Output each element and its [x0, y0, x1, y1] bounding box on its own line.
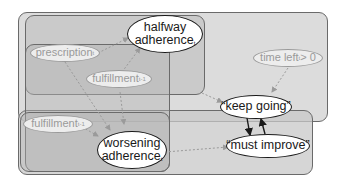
node-time-left: time leftt > 0: [253, 49, 323, 67]
node-fulfillmentb-label: fulfillment: [31, 118, 77, 130]
edge-prescription-halfway: [98, 38, 128, 53]
node-time-left-label: time left: [260, 52, 299, 64]
edge-worsening-mustimprove: [165, 147, 228, 152]
edge-halfway-keepgoing: [202, 93, 222, 102]
edge-fulfillment-halfway: [122, 48, 140, 72]
node-worsening-adherence: worsening adherencet: [97, 131, 167, 169]
node-fulfillmentb-sub: t-1: [78, 121, 85, 127]
node-fulfillment-label: fulfillment: [92, 73, 138, 85]
node-worsening-line2: adherence: [102, 149, 161, 163]
node-time-left-suffix: > 0: [300, 52, 316, 64]
edge-fulfillment-worsening: [120, 92, 124, 124]
node-worsening-sub: t: [161, 156, 163, 162]
node-must-improve-label: “must improve”: [226, 139, 309, 152]
node-halfway-line2: adherence: [135, 33, 194, 47]
node-prescription-sub: t: [93, 50, 95, 56]
node-fulfillment-t-1-bottom: fulfillmentt-1: [23, 115, 93, 133]
node-halfway-sub: t: [194, 40, 196, 46]
node-keep-going: “keep going”: [220, 95, 292, 119]
edge-timeleft-keepgoing: [272, 68, 288, 92]
edge-mustimprove-keepgoing: [261, 119, 265, 134]
edge-keepgoing-mustimprove: [247, 118, 250, 135]
node-must-improve: “must improve”: [226, 134, 310, 158]
node-prescription-label: prescription: [36, 47, 93, 59]
node-keep-going-label: “keep going”: [221, 100, 291, 113]
node-fulfillment-t-1: fulfillmentt-1: [86, 70, 152, 88]
node-prescription: prescriptiont: [30, 44, 100, 62]
node-fulfillment-sub: t-1: [139, 76, 146, 82]
node-halfway-adherence: halfway adherencet: [127, 15, 203, 53]
